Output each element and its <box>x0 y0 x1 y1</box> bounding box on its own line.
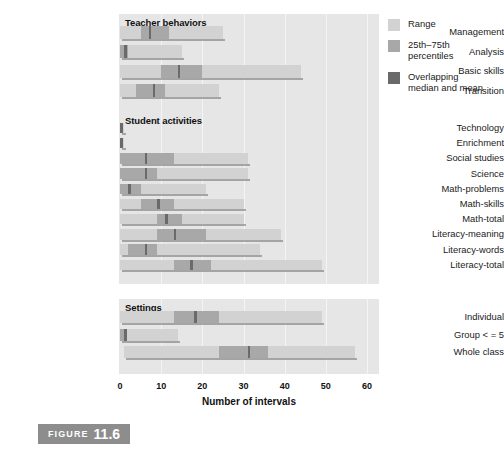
bar-median <box>145 244 148 255</box>
legend-item-range: Range <box>388 18 504 30</box>
bar-range <box>120 26 223 39</box>
category-label: Literacy-meaning <box>390 229 504 238</box>
x-tick-label-60: 60 <box>362 381 372 391</box>
bar-shadow <box>122 164 250 166</box>
bar-range <box>120 84 219 97</box>
x-axis-title: Number of intervals <box>119 396 379 407</box>
category-label: Math-total <box>390 214 504 223</box>
category-label: Group < = 5 <box>390 330 504 339</box>
category-label: Whole class <box>390 347 504 356</box>
bar-iqr <box>161 65 202 78</box>
bar-shadow <box>122 179 250 181</box>
bar-range <box>120 260 322 271</box>
bar-range <box>120 329 178 341</box>
category-label: Math-skills <box>390 199 504 208</box>
bar-shadow <box>122 270 324 272</box>
bar-median <box>248 346 251 358</box>
bar-iqr <box>136 84 165 97</box>
figure-caption: FIGURE 11.6 <box>38 424 130 444</box>
bar-shadow <box>122 58 184 60</box>
category-label: Social studies <box>390 153 504 162</box>
bar-iqr <box>120 168 157 179</box>
bar-median <box>157 199 160 210</box>
bar-median <box>145 153 148 164</box>
bar-iqr <box>157 214 182 225</box>
bar-iqr <box>141 26 170 39</box>
bar-shadow <box>122 341 180 343</box>
category-label: Literacy-words <box>390 245 504 254</box>
bar-range <box>120 214 244 225</box>
bar-shadow <box>122 148 126 150</box>
legend-item-median: Overlapping median and mean <box>388 71 504 94</box>
bar-range <box>120 65 301 78</box>
x-tick-label-0: 0 <box>117 381 122 391</box>
x-tick-label-20: 20 <box>197 381 207 391</box>
bar-shadow <box>122 255 262 257</box>
category-label: Individual <box>390 312 504 321</box>
bar-iqr <box>157 229 206 240</box>
bar-median <box>165 214 168 225</box>
legend-swatch-percentiles <box>388 40 400 52</box>
bar-median <box>124 45 127 58</box>
bar-median <box>174 229 177 240</box>
bar-median <box>149 26 152 39</box>
bar-median <box>120 123 123 134</box>
bar-median <box>145 168 148 179</box>
bar-median <box>124 329 127 341</box>
legend-label-percentiles: 25th–75th percentiles <box>408 39 504 62</box>
figure-caption-word: FIGURE <box>48 429 89 439</box>
bar-range <box>120 45 182 58</box>
legend-label-range: Range <box>408 18 504 30</box>
figure-11-6: Teacher behaviorsManagementAnalysisBasic… <box>0 0 504 452</box>
legend-swatch-range <box>388 19 400 31</box>
legend: Range 25th–75th percentiles Overlapping … <box>388 18 504 103</box>
bar-range <box>120 199 244 210</box>
bar-iqr <box>219 346 268 358</box>
legend-label-median: Overlapping median and mean <box>408 71 504 94</box>
bar-shadow <box>122 194 208 196</box>
category-label: Literacy-total <box>390 260 504 269</box>
legend-item-percentiles: 25th–75th percentiles <box>388 39 504 62</box>
bar-median <box>153 84 156 97</box>
x-tick-label-50: 50 <box>321 381 331 391</box>
bar-shadow <box>126 358 357 360</box>
category-label: Math-problems <box>390 184 504 193</box>
bar-median <box>194 311 197 323</box>
x-tick-label-30: 30 <box>238 381 248 391</box>
bar-median <box>178 65 181 78</box>
x-tick-label-40: 40 <box>280 381 290 391</box>
bar-median <box>190 260 193 271</box>
bar-shadow <box>122 78 303 80</box>
legend-swatch-median <box>388 72 400 84</box>
x-tick-label-10: 10 <box>156 381 166 391</box>
figure-caption-number: 11.6 <box>94 426 120 442</box>
bar-shadow <box>122 240 283 242</box>
bar-iqr <box>128 244 157 255</box>
bar-median <box>120 138 123 149</box>
bar-range <box>120 311 322 323</box>
bar-shadow <box>122 133 126 135</box>
bar-shadow <box>122 224 246 226</box>
category-label: Enrichment <box>390 138 504 147</box>
category-label: Technology <box>390 123 504 132</box>
bar-shadow <box>122 209 246 211</box>
bar-shadow <box>122 39 225 41</box>
bar-median <box>128 184 131 195</box>
bar-shadow <box>122 97 221 99</box>
category-label: Science <box>390 169 504 178</box>
bar-shadow <box>122 323 324 325</box>
